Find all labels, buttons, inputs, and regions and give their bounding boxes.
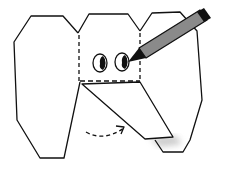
trunk-flap bbox=[82, 82, 173, 139]
right-eye bbox=[115, 53, 129, 71]
left-ear bbox=[14, 16, 80, 158]
elephant-fold-diagram bbox=[0, 0, 225, 176]
eyes bbox=[93, 53, 129, 72]
left-eye bbox=[93, 54, 107, 72]
fold-arrow-icon bbox=[86, 126, 124, 136]
head-panel bbox=[78, 14, 140, 81]
